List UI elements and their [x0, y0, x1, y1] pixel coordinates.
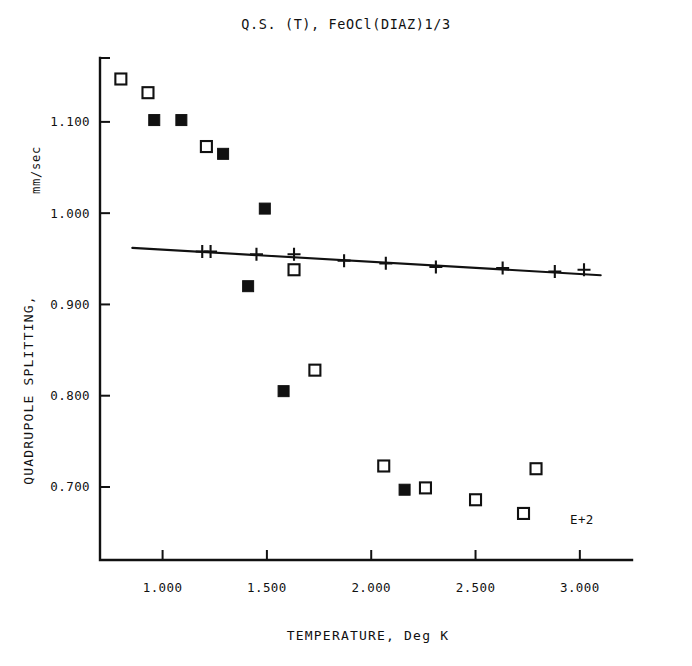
data-point-plus	[548, 265, 561, 278]
axis-exponent-label: E+2	[570, 512, 594, 527]
data-point-open-square	[470, 494, 481, 505]
data-point-plus	[496, 261, 509, 274]
series-plus	[196, 245, 591, 278]
x-tick-label: 2.000	[351, 580, 391, 595]
data-point-plus	[338, 254, 351, 267]
data-point-open-square	[420, 482, 431, 493]
data-point-open-square	[142, 87, 153, 98]
axis-lines	[100, 58, 632, 560]
data-point-filled-square	[149, 115, 160, 126]
data-point-filled-square	[243, 281, 254, 292]
y-axis-label: QUADRUPOLE SPLITTING,	[21, 295, 36, 485]
chart-canvas: Q.S. (T), FeOCl(DIAZ)1/3 0.7000.8000.900…	[0, 0, 692, 666]
y-axis-unit-label: mm/sec	[29, 146, 43, 194]
data-point-filled-square	[259, 203, 270, 214]
data-point-filled-square	[176, 115, 187, 126]
x-axis-ticks: 1.0001.5002.0002.5003.000	[143, 550, 600, 595]
data-point-open-square	[518, 508, 529, 519]
x-axis-label: TEMPERATURE, Deg K	[287, 628, 449, 643]
y-tick-label: 0.800	[50, 388, 90, 403]
data-point-open-square	[531, 463, 542, 474]
data-point-filled-square	[218, 148, 229, 159]
x-tick-label: 1.500	[247, 580, 287, 595]
data-point-filled-square	[399, 484, 410, 495]
x-tick-label: 2.500	[456, 580, 496, 595]
data-point-open-square	[289, 264, 300, 275]
chart-title: Q.S. (T), FeOCl(DIAZ)1/3	[241, 16, 450, 32]
y-tick-label: 1.100	[50, 114, 90, 129]
chart-axes	[100, 58, 632, 560]
data-point-plus	[204, 245, 217, 258]
series-open-square	[115, 73, 541, 518]
data-series-group	[115, 73, 590, 518]
x-tick-label: 3.000	[560, 580, 600, 595]
data-point-filled-square	[278, 386, 289, 397]
y-tick-label: 0.700	[50, 479, 90, 494]
x-tick-label: 1.000	[143, 580, 183, 595]
data-point-open-square	[115, 73, 126, 84]
data-point-plus	[379, 257, 392, 270]
series-filled-square	[149, 115, 410, 496]
data-point-open-square	[201, 141, 212, 152]
chart-figure: Q.S. (T), FeOCl(DIAZ)1/3 0.7000.8000.900…	[0, 0, 692, 666]
y-tick-label: 1.000	[50, 206, 90, 221]
data-point-open-square	[309, 365, 320, 376]
data-point-plus	[429, 261, 442, 274]
data-point-plus	[250, 248, 263, 261]
data-point-plus	[288, 248, 301, 261]
data-point-open-square	[378, 460, 389, 471]
y-tick-label: 0.900	[50, 297, 90, 312]
